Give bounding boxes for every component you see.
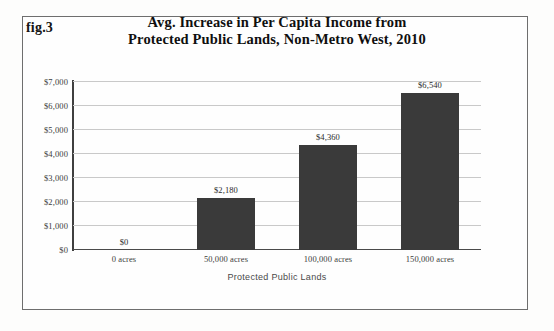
x-axis-tick-label: 0 acres xyxy=(74,254,174,264)
x-axis-title: Protected Public Lands xyxy=(73,272,481,282)
y-axis-tick-label: $5,000 xyxy=(12,125,68,135)
bar[interactable] xyxy=(401,93,459,250)
x-axis-tick-label: 50,000 acres xyxy=(176,254,276,264)
y-axis-tick-label: $6,000 xyxy=(12,101,68,111)
chart-title-line-2: Protected Public Lands, Non-Metro West, … xyxy=(72,31,482,48)
bar-value-label: $6,540 xyxy=(390,80,470,90)
x-axis-tick-labels: 0 acres50,000 acres100,000 acres150,000 … xyxy=(73,254,481,268)
x-axis-tick-label: 100,000 acres xyxy=(278,254,378,264)
figure-number-label: fig.3 xyxy=(26,20,53,36)
chart-title: Avg. Increase in Per Capita Income from … xyxy=(72,14,482,48)
bar-value-label: $0 xyxy=(84,237,164,247)
y-axis-tick-labels: $0$1,000$2,000$3,000$4,000$5,000$6,000$7… xyxy=(8,82,68,250)
y-axis-tick-label: $3,000 xyxy=(12,173,68,183)
plot-area: $0$2,180$4,360$6,540 xyxy=(73,82,481,250)
figure-root: fig.3 Avg. Increase in Per Capita Income… xyxy=(0,0,554,331)
y-axis-tick-label: $2,000 xyxy=(12,197,68,207)
bar[interactable] xyxy=(197,198,255,250)
bar-value-label: $4,360 xyxy=(288,132,368,142)
y-axis-tick-label: $4,000 xyxy=(12,149,68,159)
bar[interactable] xyxy=(299,145,357,250)
y-axis-tick-label: $7,000 xyxy=(12,77,68,87)
chart-title-line-1: Avg. Increase in Per Capita Income from xyxy=(72,14,482,31)
bar-value-label: $2,180 xyxy=(186,185,266,195)
y-axis-tick-label: $0 xyxy=(12,245,68,255)
x-axis-tick-label: 150,000 acres xyxy=(380,254,480,264)
y-axis-tick-label: $1,000 xyxy=(12,221,68,231)
